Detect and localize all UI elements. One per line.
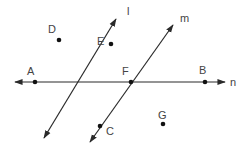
points-layer	[33, 38, 208, 129]
point-label-B: B	[199, 64, 206, 76]
line-label-l: l	[127, 5, 129, 17]
point-B	[203, 80, 208, 85]
point-F	[129, 80, 134, 85]
point-label-C: C	[106, 125, 114, 137]
labels-layer: lmnABCDEFG	[27, 5, 236, 137]
point-A	[33, 80, 38, 85]
point-E	[109, 42, 114, 47]
line-label-m: m	[180, 12, 189, 24]
geometry-diagram: lmnABCDEFG	[0, 0, 247, 154]
point-label-F: F	[122, 65, 129, 77]
lines-layer	[15, 19, 225, 142]
point-D	[57, 38, 62, 43]
point-C	[98, 124, 103, 129]
point-G	[161, 122, 166, 127]
point-label-D: D	[48, 23, 56, 35]
point-label-A: A	[27, 65, 35, 77]
point-label-G: G	[158, 109, 167, 121]
diagram-canvas: lmnABCDEFG	[0, 0, 247, 154]
point-label-E: E	[97, 35, 104, 47]
line-label-n: n	[230, 76, 236, 88]
